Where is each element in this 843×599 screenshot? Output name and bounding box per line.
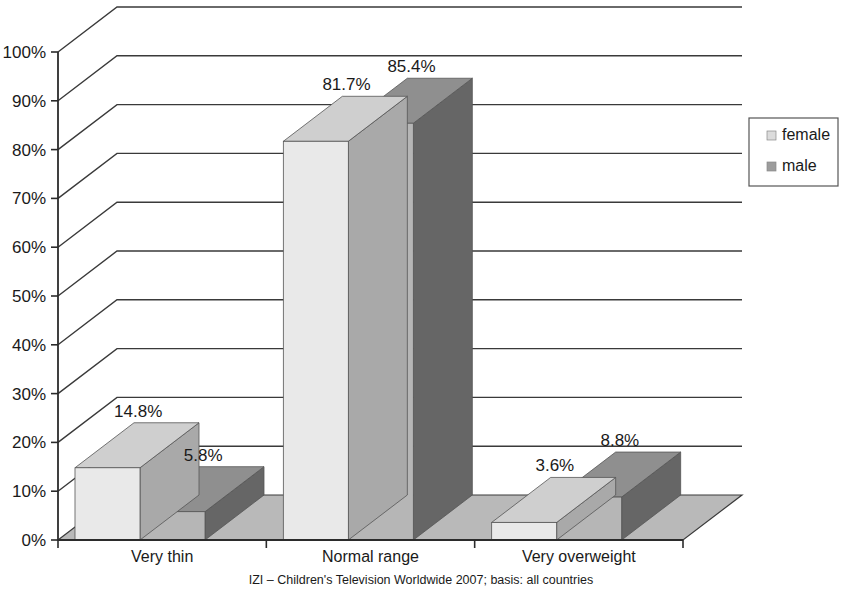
x-tick-label: Normal range — [322, 548, 419, 565]
x-tick-label: Very thin — [131, 548, 193, 565]
bar-value-label: 14.8% — [114, 402, 162, 421]
legend-swatch-icon — [767, 131, 776, 140]
y-tick-label: 100% — [3, 43, 46, 62]
x-axis-ticks — [58, 540, 683, 548]
bar-front-face — [492, 522, 557, 540]
gridline — [58, 7, 742, 52]
y-tick-label: 40% — [12, 336, 46, 355]
y-tick-label: 30% — [12, 385, 46, 404]
bars-group — [75, 78, 681, 540]
legend-item-label: male — [782, 157, 817, 174]
legend-item-label: female — [782, 126, 830, 143]
y-tick-label: 10% — [12, 482, 46, 501]
bar-front-face — [283, 141, 348, 540]
y-tick-label: 50% — [12, 287, 46, 306]
y-axis: 0%10%20%30%40%50%60%70%80%90%100% — [3, 43, 58, 550]
bar-chart-3d: 0%10%20%30%40%50%60%70%80%90%100% Very t… — [0, 0, 843, 599]
chart-container: 0%10%20%30%40%50%60%70%80%90%100% Very t… — [0, 0, 843, 599]
y-tick-label: 0% — [21, 531, 46, 550]
gridline-path — [58, 7, 742, 52]
legend-swatch-icon — [767, 162, 776, 171]
bar-female-1 — [283, 96, 407, 540]
y-tick-label: 90% — [12, 92, 46, 111]
legend: femalemale — [749, 118, 838, 186]
x-axis-tick-labels: Very thinNormal rangeVery overweight — [131, 548, 636, 565]
bar-value-label: 8.8% — [600, 431, 639, 450]
y-tick-label: 80% — [12, 141, 46, 160]
y-tick-label: 20% — [12, 433, 46, 452]
bar-value-label: 3.6% — [535, 456, 574, 475]
bar-side-face — [413, 78, 472, 540]
y-tick-label: 70% — [12, 189, 46, 208]
chart-caption: IZI – Children's Television Worldwide 20… — [249, 573, 593, 587]
y-axis-tick-labels: 0%10%20%30%40%50%60%70%80%90%100% — [3, 43, 46, 550]
x-tick-label: Very overweight — [522, 548, 636, 565]
y-tick-label: 60% — [12, 238, 46, 257]
x-axis: Very thinNormal rangeVery overweight — [58, 540, 683, 565]
bar-value-label: 5.8% — [184, 446, 223, 465]
bar-value-label: 85.4% — [387, 57, 435, 76]
y-axis-ticks — [51, 52, 58, 540]
bar-value-label: 81.7% — [322, 75, 370, 94]
bar-front-face — [75, 468, 140, 540]
bar-side-face — [348, 96, 407, 540]
